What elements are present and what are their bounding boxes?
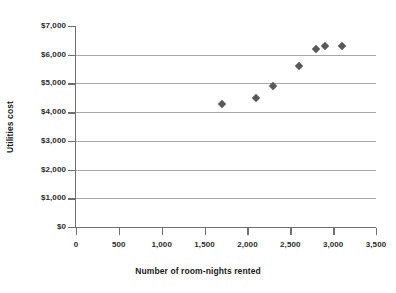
x-axis-tick xyxy=(247,228,248,235)
y-axis-tick-label: $5,000 xyxy=(6,78,66,87)
y-axis-tick xyxy=(68,26,75,27)
y-axis-tick xyxy=(68,198,75,199)
gridline xyxy=(76,198,376,199)
y-axis-tick-label: $7,000 xyxy=(6,21,66,30)
y-axis-tick-label: $2,000 xyxy=(6,165,66,174)
data-point-marker xyxy=(295,62,303,70)
data-point-marker xyxy=(217,99,225,107)
x-axis-tick xyxy=(290,228,291,235)
gridline xyxy=(76,141,376,142)
data-point-marker xyxy=(252,94,260,102)
y-axis-tick-label: $4,000 xyxy=(6,107,66,116)
x-axis-tick xyxy=(333,228,334,235)
x-axis-tick xyxy=(162,228,163,235)
gridline xyxy=(76,55,376,56)
x-axis-tick-label: 500 xyxy=(97,240,141,249)
x-axis-tick-label: 2,500 xyxy=(268,240,312,249)
x-axis-tick xyxy=(76,228,77,235)
x-axis-tick-label: 1,000 xyxy=(140,240,184,249)
y-axis-tick xyxy=(68,227,75,228)
y-axis-tick xyxy=(68,83,75,84)
x-axis-tick-label: 1,500 xyxy=(183,240,227,249)
gridline xyxy=(76,112,376,113)
x-axis-tick-label: 2,000 xyxy=(225,240,269,249)
y-axis-tick-label: $1,000 xyxy=(6,193,66,202)
x-axis-tick xyxy=(119,228,120,235)
scatter-chart: Utilities cost Number of room-nights ren… xyxy=(0,0,396,293)
y-axis-tick xyxy=(68,55,75,56)
y-axis-tick xyxy=(68,112,75,113)
x-axis-tick-label: 3,500 xyxy=(354,240,396,249)
y-axis-tick-label: $3,000 xyxy=(6,136,66,145)
x-axis-tick-label: 0 xyxy=(54,240,98,249)
x-axis-tick xyxy=(376,228,377,235)
data-point-marker xyxy=(337,42,345,50)
y-axis-tick xyxy=(68,170,75,171)
gridline xyxy=(76,83,376,84)
x-axis-title: Number of room-nights rented xyxy=(0,266,396,276)
y-axis-tick-label: $6,000 xyxy=(6,50,66,59)
x-axis-tick xyxy=(205,228,206,235)
data-point-marker xyxy=(320,42,328,50)
plot-area xyxy=(76,26,376,227)
x-axis-tick-label: 3,000 xyxy=(311,240,355,249)
y-axis-tick-label: $0 xyxy=(6,222,66,231)
gridline xyxy=(76,227,376,228)
y-axis-tick xyxy=(68,141,75,142)
data-point-marker xyxy=(312,45,320,53)
chart-title xyxy=(0,0,396,1)
gridline xyxy=(76,170,376,171)
